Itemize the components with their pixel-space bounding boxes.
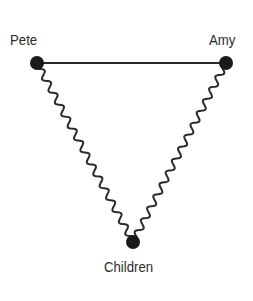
label-pete: Pete bbox=[10, 31, 37, 48]
edge-pete-children bbox=[36, 63, 135, 242]
node-pete bbox=[30, 56, 44, 70]
node-amy bbox=[219, 56, 233, 70]
node-children bbox=[126, 235, 140, 249]
relationship-diagram: Pete Amy Children bbox=[0, 0, 253, 301]
edge-amy-children bbox=[133, 63, 226, 242]
label-amy: Amy bbox=[209, 31, 235, 48]
label-children: Children bbox=[104, 258, 153, 275]
